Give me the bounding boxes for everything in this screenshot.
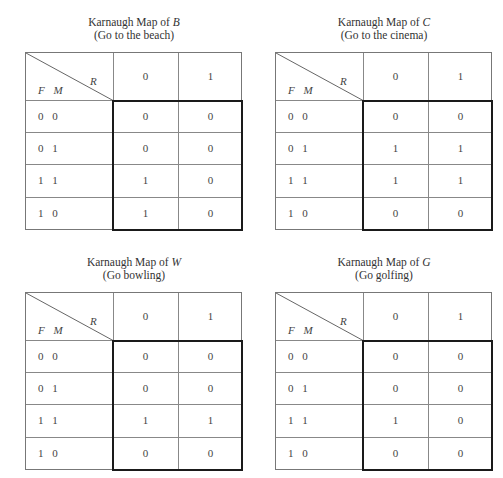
row-label: 0 1 — [38, 142, 61, 154]
column-header: 0 — [363, 70, 428, 82]
row-label: 1 0 — [288, 447, 311, 459]
value-region-border — [362, 100, 493, 231]
value-region-border — [362, 340, 493, 471]
kmap-grid: R F M 0 1 0 0000 1001 1111 000 — [25, 292, 242, 470]
row-label: 0 1 — [38, 382, 61, 394]
column-header: 0 — [113, 70, 178, 82]
map-title: Karnaugh Map of C — [275, 16, 493, 29]
map-subtitle: (Go to the cinema) — [275, 29, 493, 42]
map-subtitle: (Go bowling) — [25, 269, 243, 282]
col-var-label: R — [340, 315, 347, 327]
row-label: 0 0 — [288, 110, 311, 122]
column-header: 0 — [363, 310, 428, 322]
kmap-grid: R F M 0 1 0 0000 1001 1101 000 — [275, 292, 492, 470]
row-var-label: F M — [288, 324, 316, 336]
column-header: 1 — [428, 70, 493, 82]
column-header: 1 — [178, 70, 243, 82]
row-label: 1 0 — [288, 207, 311, 219]
row-label: 0 1 — [288, 382, 311, 394]
row-var-label: F M — [38, 84, 66, 96]
column-header: 0 — [113, 310, 178, 322]
col-var-label: R — [340, 75, 347, 87]
row-label: 1 0 — [38, 207, 61, 219]
row-label: 1 1 — [38, 414, 61, 426]
col-var-label: R — [90, 75, 97, 87]
row-label: 0 0 — [288, 350, 311, 362]
row-label: 0 1 — [288, 142, 311, 154]
row-label: 1 1 — [288, 174, 311, 186]
row-label: 1 1 — [288, 414, 311, 426]
col-var-label: R — [90, 315, 97, 327]
map-subtitle: (Go golfing) — [275, 269, 493, 282]
column-header: 1 — [178, 310, 243, 322]
row-label: 1 0 — [38, 447, 61, 459]
map-title: Karnaugh Map of G — [275, 256, 493, 269]
value-region-border — [112, 340, 243, 471]
row-var-label: F M — [288, 84, 316, 96]
map-subtitle: (Go to the beach) — [25, 29, 243, 42]
kmap-grid: R F M 0 1 0 0000 1001 1101 010 — [25, 52, 242, 230]
column-header: 1 — [428, 310, 493, 322]
kmap-grid: R F M 0 1 0 0000 1111 1111 000 — [275, 52, 492, 230]
row-label: 0 0 — [38, 350, 61, 362]
value-region-border — [112, 100, 243, 231]
row-label: 1 1 — [38, 174, 61, 186]
map-title: Karnaugh Map of B — [25, 16, 243, 29]
row-var-label: F M — [38, 324, 66, 336]
map-title: Karnaugh Map of W — [25, 256, 243, 269]
row-label: 0 0 — [38, 110, 61, 122]
